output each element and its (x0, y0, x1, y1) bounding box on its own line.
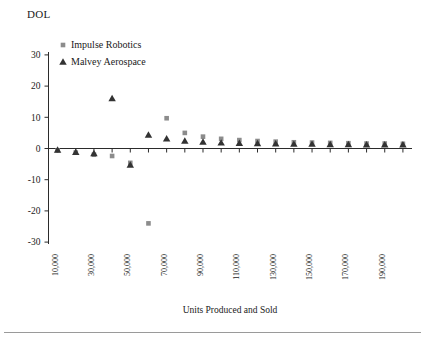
x-tick-label: 90,000 (196, 254, 205, 276)
x-tick-label-group: 10,00030,00050,00070,00090,000110,000130… (51, 254, 387, 280)
data-point-triangle (108, 95, 115, 101)
y-tick-label: 10 (31, 113, 41, 123)
data-point-triangle (54, 146, 61, 152)
scatter-plot: 3020100-10-20-30 10,00030,00050,00070,00… (0, 0, 425, 344)
data-point-square (183, 131, 188, 136)
footer-divider (4, 332, 421, 333)
data-point-square (146, 221, 151, 226)
data-point-triangle (90, 150, 97, 156)
data-point-triangle (181, 137, 188, 143)
legend-label: Malvey Aerospace (71, 56, 146, 67)
data-point-triangle (163, 135, 170, 141)
x-tick-label: 110,000 (232, 254, 241, 280)
y-tick-label: -10 (28, 175, 41, 185)
plot-svg: 3020100-10-20-30 10,00030,00050,00070,00… (0, 0, 425, 344)
data-point-triangle (127, 161, 134, 167)
legend-label: Impulse Robotics (71, 39, 141, 50)
x-tick-label: 150,000 (305, 254, 314, 280)
x-tick-label: 170,000 (341, 254, 350, 280)
y-tick-label: -20 (28, 206, 41, 216)
y-tick-label: -30 (28, 237, 41, 247)
series-malvey-aerospace-points (54, 95, 407, 168)
legend: Impulse RoboticsMalvey Aerospace (59, 39, 146, 67)
x-tick-label: 10,000 (51, 254, 60, 276)
axes (49, 52, 413, 244)
data-point-triangle (381, 141, 388, 147)
data-point-triangle (308, 140, 315, 146)
x-tick-label: 190,000 (378, 254, 387, 280)
data-point-triangle (199, 138, 206, 144)
legend-marker-triangle (59, 58, 66, 64)
data-point-triangle (290, 140, 297, 146)
data-point-triangle (236, 139, 243, 145)
x-axis-title: Units Produced and Sold (183, 305, 278, 315)
legend-marker-square (61, 43, 66, 48)
data-point-square (110, 154, 115, 159)
x-tick-label: 30,000 (87, 254, 96, 276)
data-point-triangle (217, 139, 224, 145)
x-tick-group (58, 149, 403, 153)
series-impulse-robotics-points (55, 116, 405, 226)
y-tick-label: 0 (36, 144, 41, 154)
x-tick-label: 70,000 (160, 254, 169, 276)
data-point-triangle (399, 141, 406, 147)
data-point-triangle (326, 141, 333, 147)
y-tick-label: 30 (31, 50, 41, 60)
y-tick-group: 3020100-10-20-30 (28, 50, 49, 247)
data-point-triangle (363, 141, 370, 147)
x-tick-label: 130,000 (269, 254, 278, 280)
y-tick-label: 20 (31, 81, 41, 91)
x-tick-label: 50,000 (123, 254, 132, 276)
data-point-triangle (254, 140, 261, 146)
data-point-square (164, 116, 169, 121)
chart-figure: DOL 3020100-10-20-30 10,00030,00050,0007… (0, 0, 425, 344)
data-point-triangle (72, 149, 79, 155)
data-point-triangle (145, 131, 152, 137)
data-point-triangle (345, 141, 352, 147)
data-point-triangle (272, 140, 279, 146)
